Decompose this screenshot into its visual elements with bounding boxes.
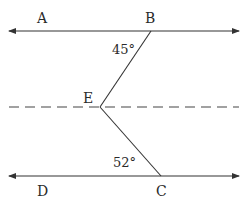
point-label-a: A <box>36 10 48 26</box>
point-label-c: C <box>156 183 167 199</box>
diagram-canvas: A B E D C 45° 52° <box>0 0 246 209</box>
angle-label-c: 52° <box>113 155 136 170</box>
point-label-b: B <box>145 10 155 26</box>
point-label-d: D <box>37 183 48 199</box>
angle-label-b: 45° <box>112 42 135 57</box>
point-label-e: E <box>83 90 93 106</box>
